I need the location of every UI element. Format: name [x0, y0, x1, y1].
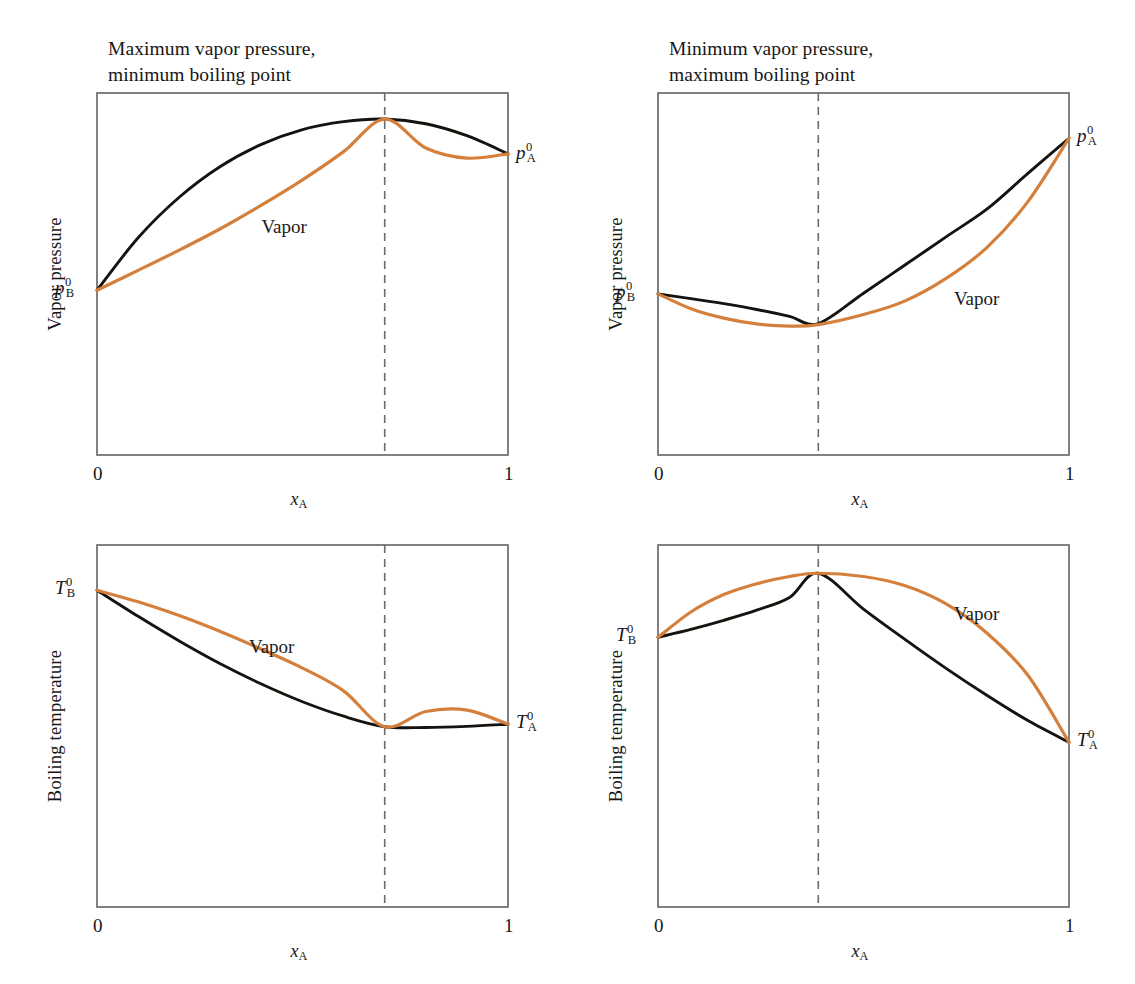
azeotrope-figure-panel-grid: Maximum vapor pressure, minimum boiling … — [0, 0, 1135, 984]
curve-vapor-bottom-right — [658, 573, 1069, 742]
plot-canvas-bottom-right — [0, 0, 1135, 984]
x-axis-label-bottom-right: xA — [852, 941, 869, 964]
x-axis-label-main: x — [852, 941, 860, 961]
endpoint-label-right-bottom-right: T0A — [1077, 727, 1098, 753]
y-axis-label-bottom-right: Boiling temperature — [606, 650, 627, 802]
x-tick-label-left-bottom-right: 0 — [654, 915, 664, 937]
plot-frame-bottom-right — [658, 545, 1069, 907]
vapor-curve-label-bottom-right: Vapor — [954, 603, 999, 625]
endpoint-label-left-bottom-right: T0B — [616, 622, 636, 648]
curve-liquid-bottom-right — [658, 573, 1069, 742]
x-tick-label-right-bottom-right: 1 — [1065, 915, 1075, 937]
plot-panel-bottom-right: Boiling temperature01xAT0BT0AVapor — [0, 0, 1135, 984]
x-axis-label-sub: A — [860, 949, 869, 963]
